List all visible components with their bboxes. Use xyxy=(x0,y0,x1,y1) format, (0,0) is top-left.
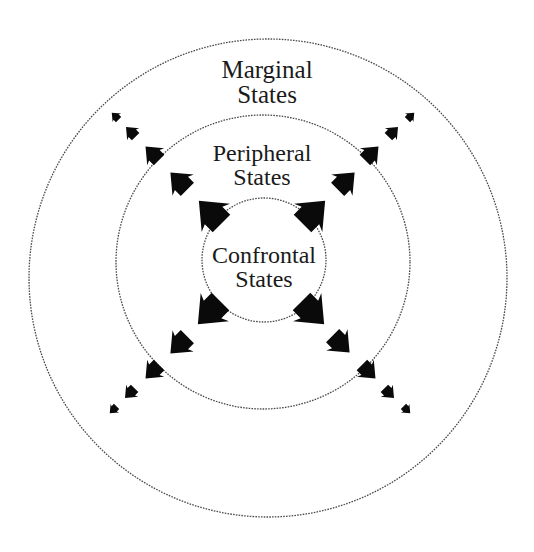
arrow-north-west-5-icon xyxy=(108,109,123,124)
arrow-south-west-1-icon xyxy=(184,287,235,338)
arrow-north-east-5-icon xyxy=(403,109,418,124)
marginal-label-line2: States xyxy=(221,82,312,107)
confrontal-label-line1: Confrontal xyxy=(212,243,316,267)
arrow-south-west-3-icon xyxy=(137,356,168,387)
arrow-south-west-4-icon xyxy=(119,382,141,404)
confrontal-label-line2: States xyxy=(212,267,316,291)
peripheral-states-label: Peripheral States xyxy=(213,141,312,189)
arrow-south-east-2-icon xyxy=(322,325,360,363)
arrow-south-east-3-icon xyxy=(353,356,384,387)
marginal-label-line1: Marginal xyxy=(221,57,312,82)
arrow-south-east-5-icon xyxy=(399,402,414,417)
arrow-north-west-1-icon xyxy=(185,187,236,238)
arrow-north-west-4-icon xyxy=(120,121,142,143)
arrow-south-west-5-icon xyxy=(106,402,121,417)
arrow-north-east-4-icon xyxy=(382,121,404,143)
arrow-north-east-1-icon xyxy=(288,187,339,238)
confrontal-states-label: Confrontal States xyxy=(212,243,316,291)
arrow-south-east-4-icon xyxy=(378,382,400,404)
arrow-north-west-2-icon xyxy=(160,162,198,200)
arrow-south-west-2-icon xyxy=(160,326,198,364)
peripheral-label-line2: States xyxy=(213,165,312,189)
peripheral-label-line1: Peripheral xyxy=(213,141,312,165)
arrow-north-west-3-icon xyxy=(137,138,168,169)
arrow-south-east-1-icon xyxy=(287,287,338,338)
arrow-north-east-2-icon xyxy=(327,162,365,200)
marginal-states-label: Marginal States xyxy=(221,57,312,107)
